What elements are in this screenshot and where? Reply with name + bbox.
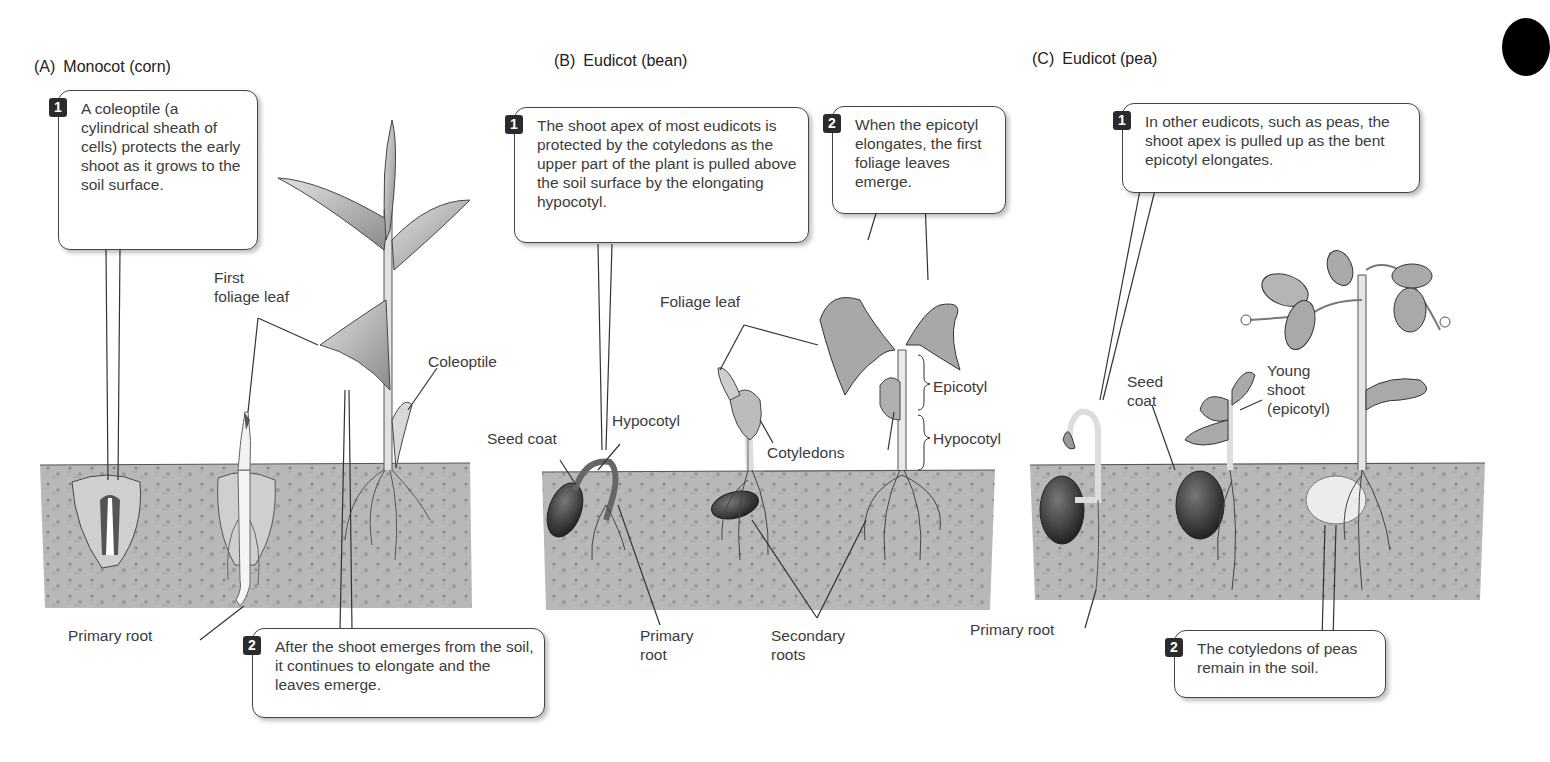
label-line: Seed bbox=[1127, 372, 1163, 391]
panel-c-title: (C)Eudicot (pea) bbox=[1032, 50, 1157, 68]
label-young-shoot: Young shoot (epicotyl) bbox=[1267, 361, 1330, 418]
label-line: Young bbox=[1267, 361, 1330, 380]
callout-text: The shoot apex of most eudicots is prote… bbox=[537, 117, 796, 210]
label-epicotyl-bracket: Epicotyl bbox=[933, 377, 987, 396]
callout-text: After the shoot emerges from the soil, i… bbox=[275, 638, 533, 693]
callout-c-step-2: 2 The cotyledons of peas remain in the s… bbox=[1174, 630, 1386, 698]
label-foliage-leaf: Foliage leaf bbox=[660, 292, 740, 311]
label-first-foliage-leaf: First foliage leaf bbox=[214, 268, 289, 306]
callout-a-step-1: 1 A coleoptile (a cylindrical sheath of … bbox=[58, 90, 258, 250]
callout-text: The cotyledons of peas remain in the soi… bbox=[1197, 640, 1357, 676]
label-line: foliage leaf bbox=[214, 287, 289, 306]
panel-a-title: (A)Monocot (corn) bbox=[34, 58, 171, 76]
label-seed-coat-c: Seed coat bbox=[1127, 372, 1163, 410]
step-badge-2: 2 bbox=[243, 636, 261, 655]
callout-b-step-1: 1 The shoot apex of most eudicots is pro… bbox=[514, 107, 809, 243]
label-seed-coat-b: Seed coat bbox=[487, 429, 557, 448]
label-line: Secondary bbox=[771, 626, 845, 645]
label-hypocotyl-bracket: Hypocotyl bbox=[933, 429, 1001, 448]
label-line: (epicotyl) bbox=[1267, 399, 1330, 418]
callout-a-step-2: 2 After the shoot emerges from the soil,… bbox=[252, 628, 545, 718]
panel-c-name: Eudicot (pea) bbox=[1062, 50, 1157, 67]
callout-b-step-2: 2 When the epicotyl elongates, the first… bbox=[832, 106, 1006, 214]
panel-c-letter: (C) bbox=[1032, 50, 1054, 67]
step-badge-1: 1 bbox=[49, 98, 67, 117]
label-primary-root-b: Primary root bbox=[640, 626, 693, 664]
callout-text: In other eudicots, such as peas, the sho… bbox=[1145, 113, 1390, 168]
callout-text: A coleoptile (a cylindrical sheath of ce… bbox=[81, 100, 240, 193]
label-line: Primary bbox=[640, 626, 693, 645]
label-line: shoot bbox=[1267, 380, 1330, 399]
label-secondary-roots: Secondary roots bbox=[771, 626, 845, 664]
step-badge-1: 1 bbox=[505, 115, 523, 134]
page-edge-marker bbox=[1502, 18, 1550, 76]
callout-text: When the epicotyl elongates, the first f… bbox=[855, 116, 982, 190]
brackets-b bbox=[918, 355, 930, 470]
step-badge-2: 2 bbox=[1165, 638, 1183, 657]
panel-b-title: (B)Eudicot (bean) bbox=[554, 52, 687, 70]
label-cotyledons: Cotyledons bbox=[767, 443, 845, 462]
panel-a-letter: (A) bbox=[34, 58, 55, 75]
callout-c-step-1: 1 In other eudicots, such as peas, the s… bbox=[1122, 103, 1420, 193]
label-primary-root-a: Primary root bbox=[68, 626, 152, 645]
label-primary-root-c: Primary root bbox=[970, 620, 1054, 639]
step-badge-1: 1 bbox=[1113, 111, 1131, 130]
label-line: First bbox=[214, 268, 289, 287]
panel-b-letter: (B) bbox=[554, 52, 575, 69]
panel-a-name: Monocot (corn) bbox=[63, 58, 171, 75]
label-line: root bbox=[640, 645, 693, 664]
panel-b-name: Eudicot (bean) bbox=[583, 52, 687, 69]
label-line: coat bbox=[1127, 391, 1163, 410]
label-hypocotyl-b: Hypocotyl bbox=[612, 411, 680, 430]
label-line: roots bbox=[771, 645, 845, 664]
step-badge-2: 2 bbox=[823, 114, 841, 133]
label-coleoptile: Coleoptile bbox=[428, 352, 497, 371]
